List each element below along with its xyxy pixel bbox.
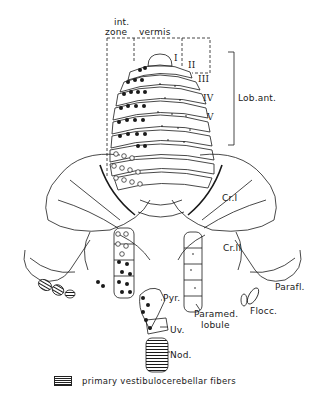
label-lobule-IV: IV xyxy=(203,93,213,103)
label-pyr: Pyr. xyxy=(163,293,180,303)
label-int-zone-1: int. xyxy=(114,17,129,27)
label-lobule-II: II xyxy=(188,60,196,70)
paramedian-lobule xyxy=(184,232,202,312)
label-paramed-2: lobule xyxy=(201,320,230,330)
vermis-column xyxy=(114,228,134,298)
label-int-zone-2: zone xyxy=(105,27,127,37)
label-lobule-I: I xyxy=(174,53,178,63)
label-nod: Nod. xyxy=(170,350,192,360)
flocculus-right xyxy=(241,286,261,306)
hatch-swatch-icon xyxy=(54,376,72,386)
legend-text: primary vestibulocerebellar fibers xyxy=(82,376,236,386)
label-parafl: Parafl. xyxy=(275,282,305,292)
label-paramed-1: Paramed. xyxy=(194,309,238,319)
label-vermis: vermis xyxy=(139,27,171,37)
label-flocc: Flocc. xyxy=(250,306,277,316)
label-cr-I: Cr.I xyxy=(222,193,237,203)
lob-ant-bracket xyxy=(228,52,234,145)
label-lobule-V: V xyxy=(207,112,214,122)
label-lobule-III: III xyxy=(198,74,209,84)
open-circles xyxy=(112,152,143,257)
cerebellum-diagram xyxy=(0,0,326,395)
posterior-lobules xyxy=(24,232,301,281)
legend: primary vestibulocerebellar fibers xyxy=(54,376,236,386)
label-lob-ant: Lob.ant. xyxy=(238,93,276,103)
label-cr-II: Cr.II xyxy=(223,243,241,253)
label-uv: Uv. xyxy=(170,325,185,335)
hemispheres xyxy=(46,154,277,231)
